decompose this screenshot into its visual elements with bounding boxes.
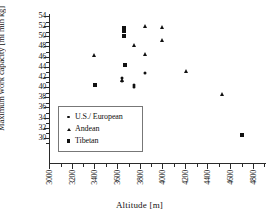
data-point-triangle (143, 52, 147, 56)
x-tick-minor (219, 164, 220, 167)
y-tick-minor (46, 103, 49, 104)
y-tick-minor (46, 72, 49, 73)
x-tick-minor (151, 164, 152, 167)
legend-item-us-european: U.S./ European (64, 111, 137, 123)
legend-item-andean: Andean (64, 123, 137, 135)
x-tick-label: 4800 (250, 170, 258, 185)
data-point-triangle (132, 43, 136, 47)
data-point-triangle (184, 69, 188, 73)
y-tick (44, 107, 49, 108)
y-tick-minor (46, 32, 49, 33)
x-tick-minor (242, 164, 243, 167)
x-tick-minor (174, 164, 175, 167)
y-tick (44, 26, 49, 27)
y-tick (44, 67, 49, 68)
x-tick-label: 4200 (182, 170, 190, 185)
data-point-triangle (143, 24, 147, 28)
x-tick-label: 3400 (91, 170, 99, 185)
x-axis-tick-labels: 3000320034003600380040004200440046004800 (0, 170, 279, 196)
y-tick-minor (46, 62, 49, 63)
x-tick (230, 164, 231, 169)
x-axis-title: Altitude [m] (0, 200, 279, 210)
x-tick-label: 3800 (137, 170, 145, 185)
data-point-square (93, 83, 97, 87)
x-tick (185, 164, 186, 169)
y-tick (44, 118, 49, 119)
y-tick-minor (46, 113, 49, 114)
y-tick-minor (46, 133, 49, 134)
y-tick-minor (46, 52, 49, 53)
legend-label: U.S./ European (75, 113, 123, 121)
x-tick-minor (106, 164, 107, 167)
y-tick (44, 87, 49, 88)
data-point-triangle (160, 25, 164, 29)
data-point-triangle (220, 92, 224, 96)
triangle-marker-icon (64, 128, 73, 131)
x-tick-label: 4000 (159, 170, 167, 185)
x-tick (49, 164, 50, 169)
y-tick (44, 97, 49, 98)
legend-label: Tibetan (75, 137, 98, 145)
x-tick-minor (83, 164, 84, 167)
x-tick (94, 164, 95, 169)
y-tick (44, 46, 49, 47)
data-point-triangle (160, 38, 164, 42)
y-tick (44, 138, 49, 139)
x-tick-minor (264, 164, 265, 167)
data-point-triangle (120, 78, 124, 82)
data-point-square (240, 133, 244, 137)
y-tick (44, 128, 49, 129)
y-tick (44, 77, 49, 78)
y-tick-minor (46, 123, 49, 124)
data-point-circle (133, 86, 136, 89)
y-tick (44, 36, 49, 37)
x-tick-label: 3000 (46, 170, 54, 185)
x-tick (162, 164, 163, 169)
y-tick-minor (46, 22, 49, 23)
x-tick-label: 3600 (114, 170, 122, 185)
data-point-square (123, 63, 127, 67)
y-tick-minor (46, 82, 49, 83)
x-tick (140, 164, 141, 169)
x-tick-minor (197, 164, 198, 167)
x-tick-minor (61, 164, 62, 167)
data-point-square (122, 29, 126, 33)
y-tick (44, 57, 49, 58)
y-tick-minor (46, 93, 49, 94)
chart-legend: U.S./ European Andean Tibetan (58, 106, 143, 152)
x-tick-label: 4600 (227, 170, 235, 185)
x-tick-minor (129, 164, 130, 167)
y-axis-tick-labels: 30323436384042444648505254 (0, 16, 46, 148)
y-tick (44, 16, 49, 17)
x-tick-label: 4400 (204, 170, 212, 185)
x-tick (72, 164, 73, 169)
x-tick-label: 3200 (69, 170, 77, 185)
data-point-circle (144, 71, 147, 74)
y-tick-minor (46, 42, 49, 43)
x-tick (207, 164, 208, 169)
square-marker-icon (64, 139, 73, 142)
x-tick (253, 164, 254, 169)
y-tick-minor (46, 143, 49, 144)
legend-label: Andean (75, 125, 99, 133)
x-tick (117, 164, 118, 169)
chart-figure: Maximum work capacity [ml min kg] 303234… (0, 0, 279, 224)
circle-marker-icon (64, 116, 73, 119)
legend-item-tibetan: Tibetan (64, 135, 137, 147)
data-point-square (122, 34, 126, 38)
data-point-triangle (92, 53, 96, 57)
